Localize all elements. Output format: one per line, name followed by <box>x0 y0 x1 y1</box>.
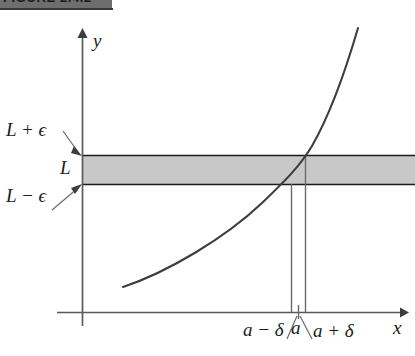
y-tick-label-upper: L + ϵ <box>6 120 46 139</box>
x-tick-label-center: a <box>291 318 301 337</box>
x-axis-label: x <box>393 318 401 337</box>
y-tick-label-middle: L <box>60 158 71 177</box>
leader-arrowhead-upper <box>71 146 82 156</box>
y-axis-arrowhead <box>78 28 88 38</box>
y-axis-label: y <box>93 31 101 50</box>
leader-line-a-right <box>300 316 312 339</box>
plot-svg <box>0 0 415 356</box>
x-tick-label-left: a − δ <box>243 320 284 339</box>
x-axis-arrowhead <box>400 308 409 318</box>
y-tick-label-lower: L − ϵ <box>6 186 46 205</box>
figure-container: FIGURE 2.4.2 L + ϵ L L − ϵ a − δ a a + <box>0 0 415 356</box>
x-tick-label-right: a + δ <box>313 321 354 340</box>
epsilon-band <box>82 155 415 185</box>
